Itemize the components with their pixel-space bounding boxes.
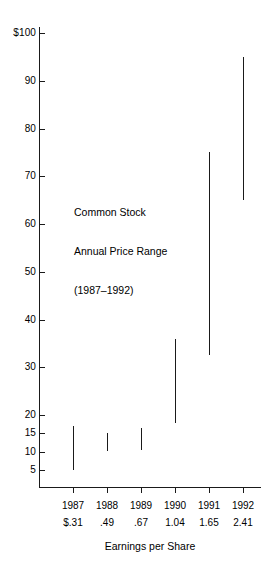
y-axis-tick xyxy=(40,272,45,273)
y-axis-tick-label-text: 50 xyxy=(3,267,36,277)
price-range-bar xyxy=(107,433,108,451)
x-axis-title: Earnings per Share xyxy=(39,540,261,552)
y-axis-tick-label: $100 xyxy=(0,28,36,38)
y-axis-tick xyxy=(40,81,45,82)
y-axis-line xyxy=(39,27,40,488)
stock-price-range-chart: $100908070605040302015105 1987$.311988.4… xyxy=(0,0,272,572)
x-axis-tick xyxy=(141,488,142,493)
chart-annotation: Common Stock Annual Price Range (1987–19… xyxy=(74,180,167,323)
y-axis-tick-label-text: 80 xyxy=(3,124,36,134)
price-range-bar xyxy=(243,57,244,200)
y-axis-tick-label: 40 xyxy=(0,315,36,325)
y-axis-tick-label-text: 70 xyxy=(3,171,36,181)
y-axis-tick xyxy=(40,176,45,177)
y-axis-tick-label-text: 20 xyxy=(3,410,36,420)
y-axis-tick-label: 30 xyxy=(0,362,36,372)
y-axis-tick-label: 60 xyxy=(0,219,36,229)
y-axis-tick xyxy=(40,367,45,368)
x-axis-tick xyxy=(209,488,210,493)
y-axis-tick-label-text: 40 xyxy=(3,315,36,325)
y-axis-tick-label-text: 15 xyxy=(3,428,36,438)
price-range-bar xyxy=(175,339,176,423)
x-axis-eps-label: 2.41 xyxy=(221,517,265,528)
x-axis-year-label: 1992 xyxy=(221,500,265,511)
y-axis-tick xyxy=(40,452,45,453)
y-axis-tick xyxy=(40,224,45,225)
price-range-bar xyxy=(209,152,210,355)
y-axis-tick-label-text: 30 xyxy=(3,362,36,372)
price-range-bar xyxy=(73,426,74,470)
x-axis-tick xyxy=(107,488,108,493)
x-axis-tick xyxy=(243,488,244,493)
price-range-bar xyxy=(141,428,142,450)
y-axis-tick-label: 80 xyxy=(0,124,36,134)
y-axis-tick-label-text: 10 xyxy=(3,447,36,457)
y-axis-tick-label-text: 90 xyxy=(3,76,36,86)
y-axis-tick-label-text: 5 xyxy=(3,465,36,475)
y-axis-tick-label: 10 xyxy=(0,447,36,457)
y-axis-tick-label: 20 xyxy=(0,410,36,420)
annotation-line-1: Common Stock xyxy=(74,206,167,219)
y-axis-tick-label: 90 xyxy=(0,76,36,86)
y-axis-tick xyxy=(40,433,45,434)
y-axis-tick xyxy=(40,129,45,130)
y-axis-tick-label: 70 xyxy=(0,171,36,181)
y-axis-tick xyxy=(40,470,45,471)
y-axis-tick-label-text: 60 xyxy=(3,219,36,229)
x-axis-tick xyxy=(175,488,176,493)
y-axis-tick-label: 15 xyxy=(0,428,36,438)
x-axis-tick xyxy=(73,488,74,493)
y-axis-tick-label-text: $100 xyxy=(3,28,36,38)
y-axis-tick-label: 5 xyxy=(0,465,36,475)
y-axis-tick xyxy=(40,415,45,416)
y-axis-tick xyxy=(40,33,45,34)
annotation-line-2: Annual Price Range xyxy=(74,245,167,258)
y-axis-tick xyxy=(40,320,45,321)
y-axis-tick-label: 50 xyxy=(0,267,36,277)
annotation-line-3: (1987–1992) xyxy=(74,284,167,297)
